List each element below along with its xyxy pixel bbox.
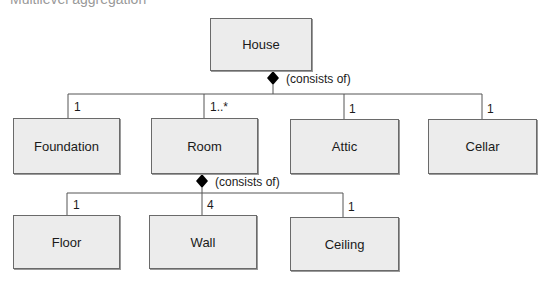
class-house: House	[210, 18, 312, 71]
class-ceiling: Ceiling	[290, 217, 399, 271]
relation-label-house: (consists of)	[286, 72, 351, 86]
multiplicity-foundation: 1	[74, 100, 81, 114]
multiplicity-cellar: 1	[487, 102, 494, 116]
class-cellar: Cellar	[428, 119, 537, 174]
class-room: Room	[151, 118, 258, 174]
multiplicity-ceiling: 1	[348, 200, 355, 214]
composition-diamond-icon	[267, 71, 279, 85]
multiplicity-floor: 1	[73, 198, 80, 212]
composition-diamond-icon	[196, 174, 208, 188]
class-floor: Floor	[13, 215, 120, 269]
multiplicity-wall: 4	[207, 198, 214, 212]
multiplicity-room: 1..*	[210, 100, 228, 114]
class-wall: Wall	[149, 215, 257, 269]
relation-label-room: (consists of)	[215, 175, 280, 189]
class-attic: Attic	[290, 119, 399, 174]
class-foundation: Foundation	[13, 118, 120, 174]
multiplicity-attic: 1	[349, 102, 356, 116]
